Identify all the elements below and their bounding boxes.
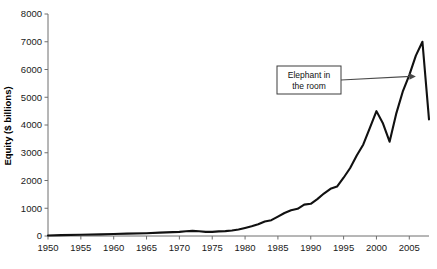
chart-background bbox=[0, 0, 437, 269]
y-tick-label: 7000 bbox=[21, 36, 42, 47]
x-tick-label: 1950 bbox=[37, 242, 58, 253]
x-tick-label: 1990 bbox=[300, 242, 321, 253]
x-tick-label: 1965 bbox=[136, 242, 157, 253]
y-tick-label: 1000 bbox=[21, 203, 42, 214]
y-tick-label: 2000 bbox=[21, 175, 42, 186]
x-tick-label: 1975 bbox=[202, 242, 223, 253]
chart-container: 010002000300040005000600070008000 195019… bbox=[0, 0, 437, 269]
annotation-text-line: Elephant in bbox=[288, 70, 331, 80]
x-tick-label: 2000 bbox=[366, 242, 387, 253]
y-axis-title: Equity ($ billions) bbox=[2, 86, 13, 165]
y-tick-label: 6000 bbox=[21, 64, 42, 75]
equity-line-chart: 010002000300040005000600070008000 195019… bbox=[0, 0, 437, 269]
x-tick-label: 1980 bbox=[234, 242, 255, 253]
x-tick-label: 1970 bbox=[169, 242, 190, 253]
x-tick-label: 1960 bbox=[103, 242, 124, 253]
y-tick-label: 0 bbox=[37, 230, 42, 241]
y-tick-label: 5000 bbox=[21, 92, 42, 103]
y-tick-label: 8000 bbox=[21, 8, 42, 19]
y-tick-label: 4000 bbox=[21, 119, 42, 130]
x-tick-label: 1985 bbox=[267, 242, 288, 253]
y-tick-label: 3000 bbox=[21, 147, 42, 158]
x-tick-label: 1995 bbox=[333, 242, 354, 253]
x-tick-label: 2005 bbox=[399, 242, 420, 253]
x-tick-label: 1955 bbox=[70, 242, 91, 253]
annotation-text-line: the room bbox=[292, 81, 326, 91]
